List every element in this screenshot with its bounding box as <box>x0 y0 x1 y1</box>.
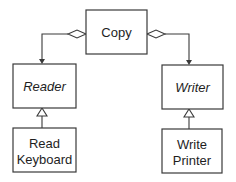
class-diagram: Copy Reader Writer Read Keyboard Write P… <box>0 0 236 182</box>
arrowhead-icon <box>39 59 45 64</box>
class-label-line-2: Keyboard <box>17 152 73 167</box>
aggregation-copy-writer <box>147 30 192 65</box>
inheritance-triangle-icon <box>37 108 47 116</box>
aggregation-diamond-icon <box>68 30 86 38</box>
class-label: Writer <box>175 80 210 95</box>
generalization-writeprinter-writer <box>184 109 194 129</box>
generalization-readkeyboard-reader <box>37 108 47 128</box>
connector-line <box>42 34 68 61</box>
class-label-line-1: Read <box>29 136 60 151</box>
class-read-keyboard[interactable]: Read Keyboard <box>13 128 76 172</box>
class-label: Copy <box>101 25 132 40</box>
class-label-line-1: Write <box>177 137 207 152</box>
inheritance-triangle-icon <box>184 109 194 117</box>
class-label: Reader <box>23 79 66 94</box>
class-writer[interactable]: Writer <box>162 65 223 109</box>
class-label-line-2: Printer <box>173 153 212 168</box>
arrowhead-icon <box>186 60 192 65</box>
connector-line <box>165 34 189 62</box>
aggregation-copy-reader <box>39 30 86 64</box>
class-copy[interactable]: Copy <box>86 10 147 54</box>
class-write-printer[interactable]: Write Printer <box>162 129 222 173</box>
class-reader[interactable]: Reader <box>13 64 76 108</box>
aggregation-diamond-icon <box>147 30 165 38</box>
